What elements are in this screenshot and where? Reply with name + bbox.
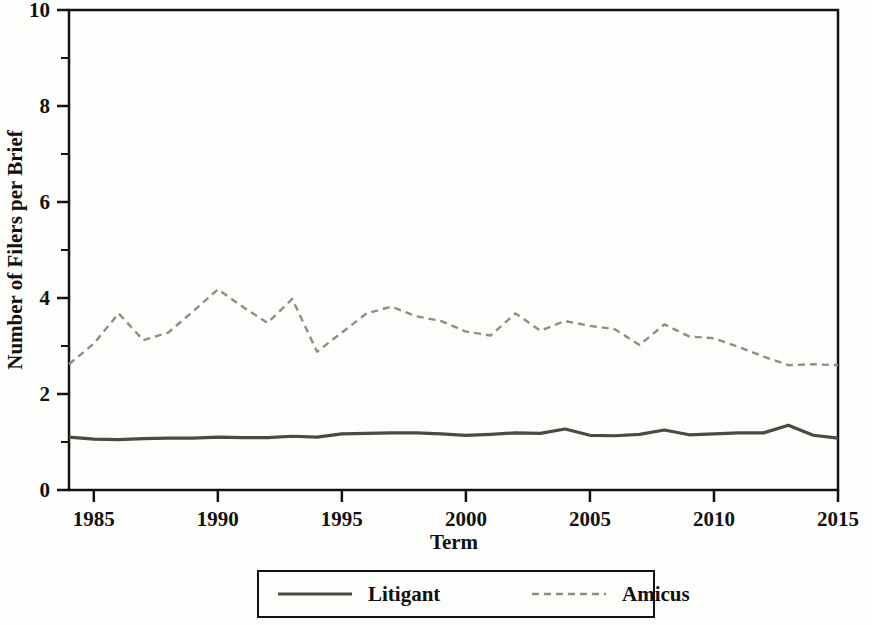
y-tick-label: 0	[40, 478, 51, 502]
x-tick-label: 2005	[569, 507, 611, 531]
x-tick-label: 2015	[817, 507, 859, 531]
x-tick-label: 2000	[445, 507, 487, 531]
x-tick-label: 1995	[321, 507, 363, 531]
y-tick-label: 4	[40, 286, 51, 310]
x-tick-label: 1985	[73, 507, 115, 531]
y-tick-label: 2	[40, 382, 51, 406]
x-tick-label: 1990	[197, 507, 239, 531]
chart-figure: 0246810 1985199019952000200520102015 Num…	[0, 0, 872, 625]
y-axis-title: Number of Filers per Brief	[3, 129, 27, 370]
legend-label-amicus: Amicus	[622, 582, 690, 606]
x-axis-title: Term	[430, 530, 479, 554]
y-tick-label: 10	[29, 0, 50, 22]
y-tick-label: 6	[40, 190, 51, 214]
legend-label-litigant: Litigant	[368, 582, 440, 606]
y-tick-label: 8	[40, 94, 51, 118]
x-tick-label: 2010	[693, 507, 735, 531]
line-chart: 0246810 1985199019952000200520102015 Num…	[0, 0, 872, 625]
